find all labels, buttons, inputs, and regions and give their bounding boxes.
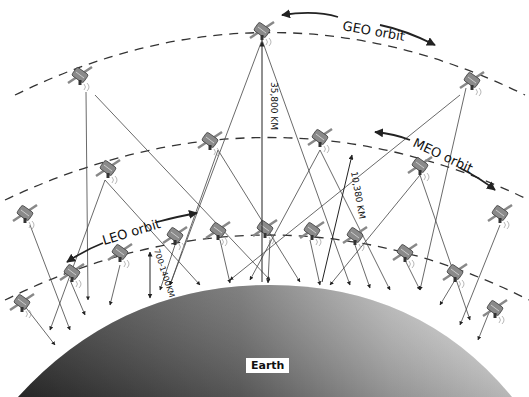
meo-direction-arrow-left <box>375 132 410 140</box>
leo-direction-arrow-right <box>157 213 197 222</box>
satellites <box>10 22 512 324</box>
earth <box>18 285 512 397</box>
orbit-diagram: GEO orbit MEO orbit LEO orbit 35,800 KM … <box>0 0 529 397</box>
geo-direction-arrow <box>282 13 338 17</box>
leo-direction-arrow-left <box>67 243 103 262</box>
meo-orbit-path <box>5 138 529 201</box>
meo-altitude-label: 10,380 KM <box>349 171 367 220</box>
earth-label: Earth <box>246 358 289 373</box>
leo-altitude-label: 700-1400KM <box>152 248 176 299</box>
geo-altitude-label: 35,800 KM <box>269 82 279 130</box>
leo-orbit-label: LEO orbit <box>100 216 162 248</box>
geo-orbit-label: GEO orbit <box>341 18 406 44</box>
